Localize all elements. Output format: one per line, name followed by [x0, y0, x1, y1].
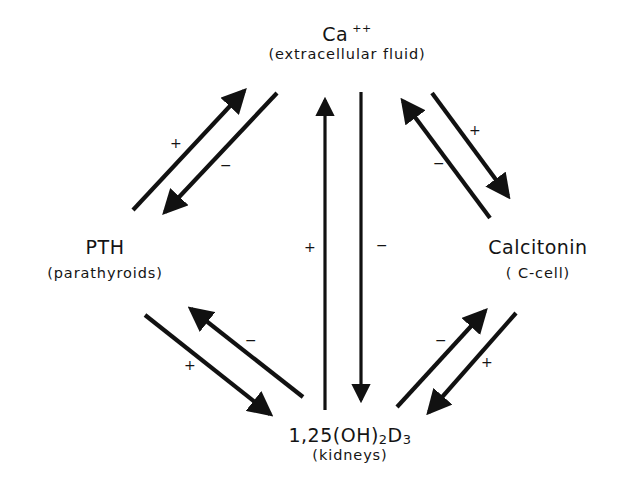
sign-calcium-to-pth: − — [220, 158, 232, 172]
sign-calcitonin-to-calcium: − — [433, 156, 445, 170]
vitd-label: 1,25(OH)2D3 — [262, 424, 438, 447]
sign-calcium-to-calcitonin: + — [469, 123, 481, 137]
arrow-pth-to-calcium — [133, 91, 244, 210]
calcitonin-label: Calcitonin — [463, 236, 613, 258]
vitd-mid: D — [388, 424, 403, 446]
arrow-vitd-to-calcitonin — [397, 311, 485, 407]
vitd-prefix: 1,25(OH) — [288, 424, 378, 446]
calcium-subtitle: (extracellular fluid) — [232, 46, 462, 62]
vitd-subscript-1: 2 — [379, 432, 388, 447]
arrow-calcitonin-to-vitd — [429, 313, 516, 412]
calcitonin-subtitle: ( C-cell) — [463, 265, 613, 281]
vitd-subtitle: (kidneys) — [262, 447, 438, 463]
sign-vitd-to-calcitonin: − — [435, 333, 447, 347]
calcium-charge: ++ — [352, 22, 371, 35]
pth-subtitle: (parathyroids) — [30, 265, 180, 281]
arrow-vitd-to-pth — [191, 309, 303, 397]
vitd-node: 1,25(OH)2D3 (kidneys) — [262, 424, 438, 463]
arrow-calcium-to-pth — [165, 93, 277, 212]
vitd-subscript-2: 3 — [403, 432, 412, 447]
sign-pth-to-vitd: + — [184, 358, 196, 372]
calcitonin-node: Calcitonin ( C-cell) — [463, 236, 613, 281]
sign-calcium-to-vitd: − — [376, 238, 388, 252]
pth-label: PTH — [30, 236, 180, 258]
arrow-calcitonin-to-calcium — [403, 101, 490, 218]
calcium-label: Ca++ — [232, 22, 462, 45]
calcium-name: Ca — [322, 23, 348, 45]
arrow-calcium-to-calcitonin — [432, 93, 508, 196]
arrow-pth-to-vitd — [145, 315, 270, 414]
pth-node: PTH (parathyroids) — [30, 236, 180, 281]
sign-vitd-to-pth: − — [245, 333, 257, 347]
sign-pth-to-calcium: + — [170, 136, 182, 150]
calcium-node: Ca++ (extracellular fluid) — [232, 22, 462, 62]
sign-vitd-to-calcium: + — [304, 240, 316, 254]
sign-calcitonin-to-vitd: + — [481, 355, 493, 369]
